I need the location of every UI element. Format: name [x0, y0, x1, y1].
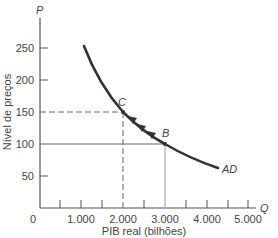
curve-label-ad: AD: [221, 163, 237, 175]
point-c-guides: [40, 112, 123, 208]
x-tick-5000: 5.000: [234, 213, 262, 225]
x-tick-4000: 4.000: [193, 213, 221, 225]
x-tick-3000: 3.000: [151, 213, 179, 225]
y-tick-250: 250: [16, 42, 34, 54]
aggregate-demand-chart: P Q 250 200 150 100 50 0 1.000 2.000 3.0…: [0, 0, 278, 238]
y-tick-labels: 250 200 150 100 50: [16, 42, 34, 182]
axes: [40, 18, 256, 208]
y-tick-200: 200: [16, 74, 34, 86]
movement-arrows: [128, 116, 156, 139]
point-b-label: B: [162, 127, 169, 139]
x-axis-title: PIB real (bilhões): [102, 225, 186, 237]
x-tick-labels: 0 1.000 2.000 3.000 4.000 5.000: [30, 213, 262, 225]
y-tick-50: 50: [22, 170, 34, 182]
point-c-label: C: [118, 96, 126, 108]
y-tick-100: 100: [16, 138, 34, 150]
y-axis-symbol: P: [36, 4, 44, 16]
x-tick-2000: 2.000: [109, 213, 137, 225]
x-ticks: [60, 200, 248, 208]
y-tick-150: 150: [16, 106, 34, 118]
point-c-marker: [121, 110, 125, 114]
point-b-marker: [163, 142, 167, 146]
y-axis-title: Nível de preços: [1, 73, 13, 150]
x-tick-0: 0: [30, 213, 36, 225]
point-b-guides: [40, 144, 165, 208]
x-tick-1000: 1.000: [67, 213, 95, 225]
ad-curve: [84, 46, 218, 168]
